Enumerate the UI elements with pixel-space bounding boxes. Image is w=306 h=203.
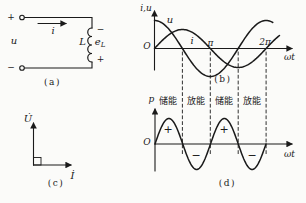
sign-plus-1: + bbox=[163, 123, 172, 134]
sign-minus-2: − bbox=[247, 150, 256, 161]
b-origin-label: O bbox=[143, 42, 150, 51]
emf-label: eL bbox=[95, 37, 106, 49]
region-label-store-2: 储能 bbox=[215, 97, 233, 106]
caption-c: (c) bbox=[48, 179, 65, 188]
sign-minus-1: − bbox=[191, 150, 200, 161]
region-label-release-2: 放能 bbox=[243, 97, 261, 106]
d-y-axis-label: p bbox=[149, 95, 155, 104]
d-origin-label: O bbox=[143, 138, 150, 147]
region-label-store-1: 储能 bbox=[159, 97, 177, 106]
wire-top bbox=[25, 18, 93, 29]
tick-2pi-label: 2π bbox=[259, 38, 271, 47]
caption-b: (b) bbox=[214, 75, 231, 84]
terminal-top bbox=[20, 15, 25, 20]
voltage-phasor-label: U̇ bbox=[24, 114, 32, 124]
terminal-plus-label: + bbox=[7, 12, 15, 21]
inductor-coil bbox=[88, 28, 92, 62]
current-phasor-label: İ bbox=[71, 171, 75, 181]
d-x-axis-label: ωt bbox=[284, 149, 295, 158]
sign-plus-2: + bbox=[219, 123, 228, 134]
current-label: i bbox=[51, 26, 54, 36]
region-label-release-1: 放能 bbox=[187, 97, 205, 106]
caption-a: (a) bbox=[44, 77, 61, 86]
emf-subscript: L bbox=[101, 41, 106, 49]
b-x-axis-label: ωt bbox=[284, 52, 295, 61]
emf-polarity-bottom: + bbox=[97, 54, 105, 63]
wire-bottom bbox=[25, 62, 93, 68]
inductor-label: L bbox=[79, 37, 86, 47]
source-voltage-label: u bbox=[11, 36, 17, 46]
phasor-c bbox=[34, 123, 72, 165]
curve-i-label: i bbox=[190, 36, 193, 46]
emf-polarity-top: − bbox=[97, 25, 105, 34]
tick-pi-label: π bbox=[208, 39, 214, 48]
b-y-axis-label: i,u bbox=[140, 3, 152, 12]
terminal-minus-label: − bbox=[7, 63, 15, 72]
right-angle-marker bbox=[34, 158, 42, 166]
caption-d: (d) bbox=[219, 179, 236, 188]
textbook-figure-inductor-ac: + − u i L eL − + (a) i,u O u i π 2π ωt (… bbox=[0, 0, 306, 203]
terminal-bottom bbox=[20, 66, 25, 71]
curve-u-label: u bbox=[167, 15, 173, 25]
